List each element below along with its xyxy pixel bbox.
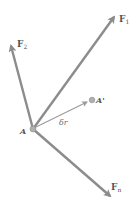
point-a-prime: A' [89, 95, 104, 105]
force-f1-label: F1 [119, 14, 129, 25]
force-f2-label: F2 [17, 39, 27, 50]
point-a-prime-dot-icon [89, 97, 95, 103]
force-f2-vector: F2 [11, 39, 33, 129]
point-a-label: A [19, 126, 26, 136]
force-diagram: F1 F2 Fn δr A' A [0, 0, 130, 206]
point-a-dot-icon [30, 126, 36, 132]
force-fn-arrow-icon [33, 129, 110, 196]
force-f1-arrow-icon [33, 17, 114, 129]
force-f1-vector: F1 [33, 14, 129, 129]
force-f2-arrow-icon [11, 46, 33, 129]
point-a: A [19, 126, 36, 136]
force-fn-vector: Fn [33, 129, 121, 196]
point-a-prime-label: A' [95, 95, 105, 105]
force-fn-label: Fn [111, 182, 121, 193]
displacement-label: δr [59, 118, 69, 127]
